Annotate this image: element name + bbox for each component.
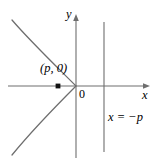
focus-point-label: (p, 0): [40, 62, 67, 75]
x-axis-label: x: [142, 89, 148, 102]
parabola-figure: (p, 0) 0 x y x = −p: [0, 0, 157, 164]
origin-label: 0: [79, 88, 85, 100]
y-axis-label: y: [66, 8, 72, 21]
directrix-label: x = −p: [108, 111, 143, 124]
parabola-diagram-svg: [0, 0, 157, 164]
parabola-curve: [12, 20, 76, 155]
y-axis-arrowhead-icon: [73, 14, 79, 21]
focus-point-marker: [56, 84, 61, 89]
